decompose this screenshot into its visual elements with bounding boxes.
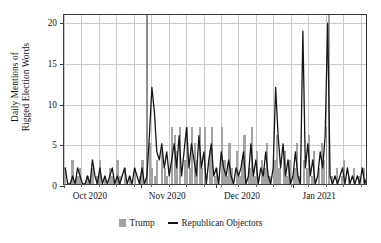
legend-item-trump: Trump [119, 218, 155, 228]
y-axis-tick-label: 5 [52, 140, 57, 150]
x-axis-tick [141, 184, 142, 188]
x-axis-tick-label: Jan 2021 [303, 191, 336, 201]
x-axis-tick-label: Oct 2020 [73, 191, 107, 201]
x-axis-minor-tick [204, 184, 205, 187]
chart-legend: Trump Republican Objectors [0, 218, 381, 228]
x-axis-minor-tick [134, 184, 135, 187]
x-axis-minor-tick [238, 184, 239, 187]
x-axis-minor-tick [151, 184, 152, 187]
plot-area: 05101520 Oct 2020Nov 2020Dec 2020Jan 202… [63, 14, 367, 185]
chart-figure: Daily Mentions of Rigged Election Words … [0, 0, 381, 243]
line-series-republican-objectors [64, 15, 366, 184]
y-axis-tick [60, 64, 64, 65]
x-axis-minor-tick [308, 184, 309, 187]
x-axis-minor-tick [343, 184, 344, 187]
y-axis-tick [60, 23, 64, 24]
x-axis-tick [293, 184, 294, 188]
legend-bar-swatch-icon [119, 219, 126, 227]
x-axis-minor-tick [256, 184, 257, 187]
x-axis-minor-tick [116, 184, 117, 187]
x-axis-minor-tick [81, 184, 82, 187]
x-axis-minor-tick [361, 184, 362, 187]
y-axis-title: Daily Mentions of Rigged Election Words [10, 1, 40, 173]
x-axis-minor-tick [326, 184, 327, 187]
x-axis-minor-tick [99, 184, 100, 187]
x-axis-minor-tick [169, 184, 170, 187]
legend-line-swatch-icon [168, 222, 178, 224]
x-axis-tick-label: Dec 2020 [224, 191, 260, 201]
x-axis-tick [216, 184, 217, 188]
y-axis-tick-label: 0 [52, 181, 57, 191]
legend-item-republican-objectors: Republican Objectors [168, 218, 263, 228]
x-axis-tick-label: Nov 2020 [149, 191, 186, 201]
y-axis-tick-label: 20 [48, 18, 57, 28]
y-axis-tick [60, 145, 64, 146]
x-axis-minor-tick [291, 184, 292, 187]
y-axis-title-line-1: Daily Mentions of [10, 1, 21, 173]
y-axis-title-line-2: Rigged Election Words [21, 1, 32, 173]
y-axis-tick-label: 10 [48, 100, 57, 110]
x-axis-minor-tick [64, 184, 65, 187]
x-axis-minor-tick [221, 184, 222, 187]
x-axis-minor-tick [186, 184, 187, 187]
legend-label-trump: Trump [130, 218, 155, 228]
legend-label-republican-objectors: Republican Objectors [182, 218, 263, 228]
y-axis-tick-label: 15 [48, 59, 57, 69]
x-axis-minor-tick [273, 184, 274, 187]
y-axis-tick [60, 105, 64, 106]
